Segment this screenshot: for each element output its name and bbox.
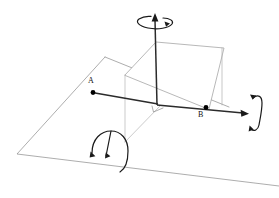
point-b (204, 105, 209, 110)
point-a (91, 90, 96, 95)
point-a-label: A (88, 76, 94, 85)
point-b-label: B (198, 110, 203, 119)
geometry-diagram (0, 0, 279, 198)
roll-rotation-arrow (249, 95, 262, 132)
diagram-canvas: A B (0, 0, 279, 198)
